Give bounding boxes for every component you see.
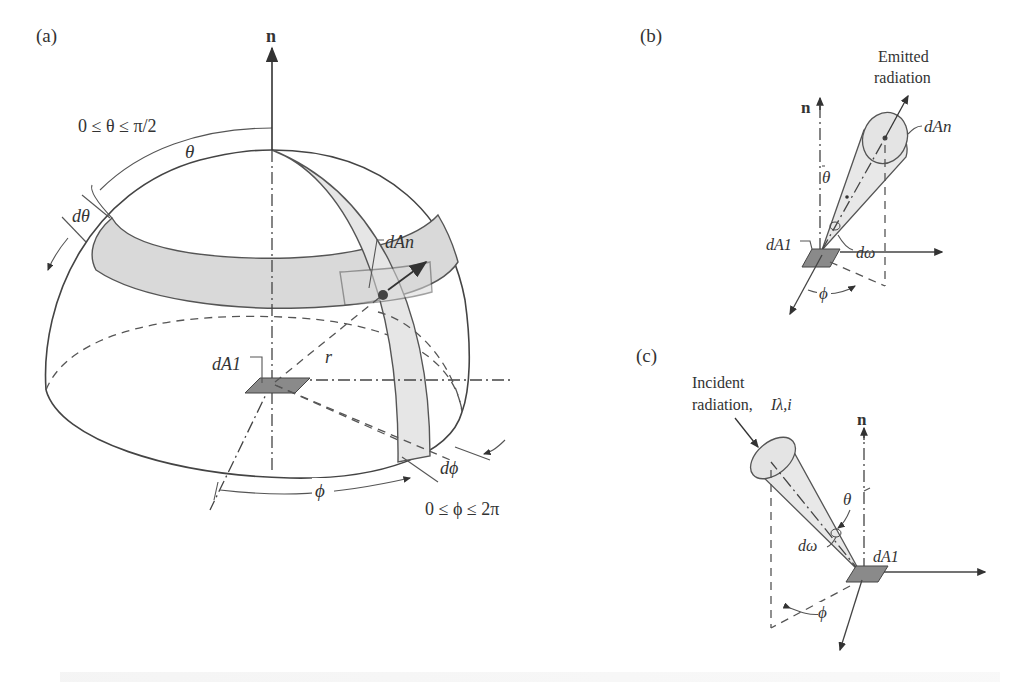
phi-range-label: 0 ≤ ϕ ≤ 2π — [425, 499, 499, 519]
emitted-radiation-line1: Emitted — [878, 48, 929, 65]
domega-label-b: dω — [856, 244, 875, 261]
panel-b: (b) Emitted radiation n θ dAn dA1 dω — [640, 25, 951, 314]
incident-radiation-line2: radiation, — [692, 396, 753, 413]
dphi-label: dϕ — [440, 458, 458, 478]
caption-cutoff — [60, 672, 1000, 682]
theta-label-a: θ — [185, 141, 194, 162]
dAn-label-b: dAn — [924, 117, 951, 136]
theta-range-label: 0 ≤ θ ≤ π/2 — [78, 116, 156, 136]
panel-a-label: (a) — [36, 25, 57, 47]
emitted-radiation-line2: radiation — [874, 69, 931, 86]
theta-label-c: θ — [843, 490, 851, 509]
intensity-label: Iλ,i — [770, 396, 792, 413]
r-label: r — [325, 347, 333, 367]
domega-label-c: dω — [798, 537, 817, 554]
dAn-label-a: dAn — [385, 232, 414, 252]
dA1-label-a: dA1 — [212, 354, 241, 374]
panel-a: (a) n dA1 r — [36, 25, 510, 519]
panel-c-label: (c) — [636, 345, 657, 367]
normal-label-a: n — [266, 26, 276, 46]
panel-c: (c) Incident radiation, Iλ,i n θ dω dA1 … — [636, 345, 985, 650]
phi-label-a: ϕ — [315, 480, 325, 501]
phi-label-c: ϕ — [818, 603, 827, 622]
dA1-label-c: dA1 — [873, 548, 899, 565]
phi-label-b: ϕ — [819, 284, 828, 303]
normal-label-c: n — [857, 410, 867, 429]
incident-radiation-line1: Incident — [692, 374, 745, 391]
panel-b-label: (b) — [640, 25, 662, 47]
dA1-label-b: dA1 — [766, 236, 792, 253]
radiation-geometry-figure: (a) n dA1 r — [0, 0, 1013, 685]
dtheta-label: dθ — [72, 206, 90, 226]
theta-label-b: θ — [822, 168, 830, 187]
normal-label-b: n — [801, 98, 811, 117]
